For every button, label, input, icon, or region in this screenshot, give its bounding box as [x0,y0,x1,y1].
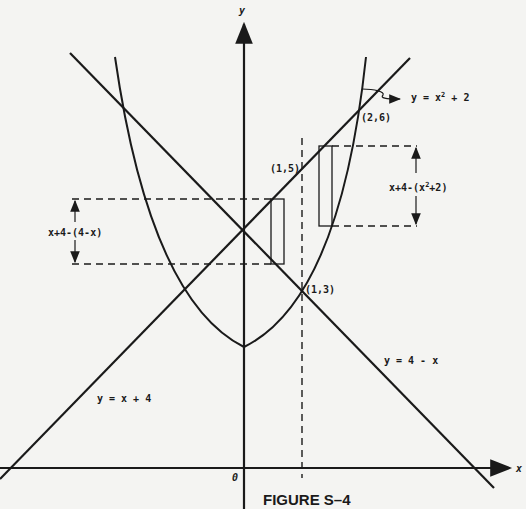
line-label-y-equals-x-plus-4: y = x + 4 [97,393,151,404]
point-label-2-6: (2,6) [361,112,391,123]
x-axis-label: x [515,463,522,474]
parabola-equation-label: y = x2 + 2 [411,91,469,103]
line-label-y-equals-4-minus-x: y = 4 - x [384,355,438,366]
parabola-callout-leader [362,89,400,99]
strip-label-right: x+4-(x2+2) [389,181,447,193]
line-y-equals-x-plus-4 [0,58,410,479]
point-label-1-3: (1,3) [305,284,335,295]
origin-label: 0 [232,472,238,483]
strip-rectangle-left [271,199,284,264]
parabola-y-equals-x-squared-plus-2 [115,57,366,347]
region-between-curves-figure: x y 0 x+4-(4-x) x+4-(x2+2) (1,5) (1,3) (… [0,0,526,509]
line-y-equals-4-minus-x [70,53,494,488]
figure-caption: FIGURE S–4 [263,491,351,508]
point-label-1-5: (1,5) [270,163,300,174]
strip-label-left: x+4-(4-x) [48,227,102,238]
strip-rectangle-right [319,146,332,226]
y-axis-label: y [238,5,246,16]
